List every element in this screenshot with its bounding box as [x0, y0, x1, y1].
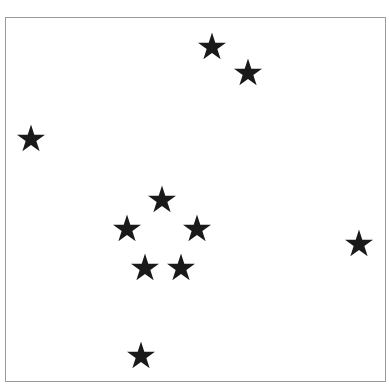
star-icon — [167, 254, 195, 281]
star-icon — [17, 125, 45, 152]
diagram-frame — [5, 17, 386, 382]
star-icon — [234, 59, 262, 86]
star-icon — [113, 215, 141, 242]
star-icon — [131, 254, 159, 281]
star-icon — [148, 186, 176, 213]
star-icon — [127, 342, 155, 369]
star-icon — [345, 230, 373, 257]
star-icon — [183, 215, 211, 242]
star-icon — [198, 33, 226, 60]
